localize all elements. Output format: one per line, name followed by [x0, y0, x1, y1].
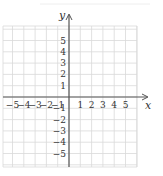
- coordinate-plane: x y −5−4−3−2−112345 54321−1−2−3−4−5: [0, 0, 163, 176]
- x-axis-label: x: [145, 99, 152, 112]
- y-tick-label: 4: [60, 47, 66, 57]
- x-tick-label: 5: [123, 100, 129, 110]
- y-axis-label: y: [58, 9, 66, 22]
- y-tick-label: 5: [60, 36, 66, 46]
- x-tick-label: 3: [100, 100, 106, 110]
- y-tick-label: 1: [60, 81, 66, 91]
- x-tick-label: 4: [111, 100, 117, 110]
- y-tick-label: −2: [53, 115, 66, 125]
- x-tick-label: 2: [89, 100, 95, 110]
- axes: [3, 14, 148, 167]
- y-tick-label: −4: [53, 137, 67, 147]
- y-tick-label: −5: [53, 149, 67, 159]
- x-tick-label: 1: [77, 100, 83, 110]
- y-tick-label: −3: [53, 126, 67, 136]
- y-tick-label: 2: [60, 69, 66, 79]
- y-tick-label: 3: [60, 58, 66, 68]
- y-tick-label: −1: [53, 103, 66, 113]
